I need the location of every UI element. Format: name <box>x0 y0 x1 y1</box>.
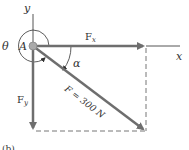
y-axis-label: y <box>23 2 31 15</box>
point-a-label: A <box>18 40 27 53</box>
force-arrow <box>33 46 143 129</box>
x-axis-label: x <box>176 50 183 63</box>
force-diagram: y x θ α Fx Fy F = 300 N A (b) <box>0 0 189 150</box>
alpha-arc <box>63 46 71 70</box>
alpha-label: α <box>73 57 81 70</box>
fx-label: Fx <box>85 31 96 44</box>
point-a <box>29 42 37 50</box>
figure-caption: (b) <box>2 144 15 150</box>
force-label: F = 300 N <box>62 83 108 121</box>
theta-label: θ <box>2 40 9 53</box>
fy-label: Fy <box>17 94 29 107</box>
